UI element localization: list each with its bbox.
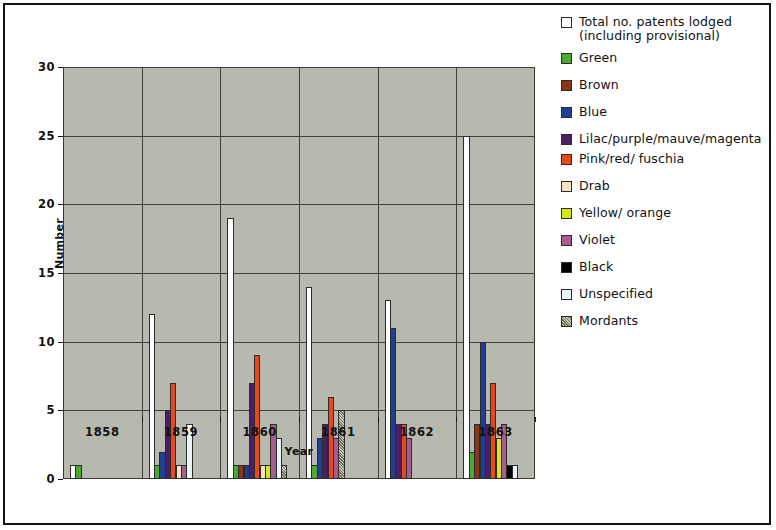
legend-swatch-icon [561, 134, 572, 145]
legend-swatch-icon [561, 316, 572, 327]
legend-item[interactable]: Mordants [561, 314, 769, 328]
y-axis-tick-label: 5 [25, 403, 55, 417]
legend-swatch-icon [561, 235, 572, 246]
legend-swatch-icon [561, 208, 572, 219]
legend-swatch-icon [561, 17, 572, 28]
y-axis-tick-mark [58, 342, 63, 343]
legend-item[interactable]: Green [561, 51, 769, 65]
legend-label: Green [579, 51, 617, 65]
y-axis-tick-mark [58, 410, 63, 411]
y-axis-tick-label: 0 [25, 472, 55, 486]
legend-label: Drab [579, 179, 610, 193]
legend-swatch-icon [561, 154, 572, 165]
x-axis-tick-label: 1858 [63, 425, 142, 439]
bar [281, 465, 287, 479]
legend-label: Mordants [579, 314, 638, 328]
y-axis-tick-label: 30 [25, 60, 55, 74]
legend-label: Brown [579, 78, 619, 92]
legend-item[interactable]: Unspecified [561, 287, 769, 301]
legend-label: Violet [579, 233, 615, 247]
x-axis-tick-label: 1862 [378, 425, 457, 439]
legend-swatch-icon [561, 107, 572, 118]
x-axis-tick-label: 1859 [142, 425, 221, 439]
legend-swatch-icon [561, 80, 572, 91]
bar [254, 355, 260, 479]
y-axis-tick-label: 20 [25, 197, 55, 211]
x-axis-tick-mark [142, 417, 143, 422]
chart-legend: Total no. patents lodged (including prov… [561, 15, 769, 330]
y-axis-label: Number [53, 184, 66, 304]
x-axis-tick-label: 1861 [299, 425, 378, 439]
x-axis-tick-label: 1863 [456, 425, 535, 439]
legend-item[interactable]: Lilac/purple/mauve/magenta [561, 132, 769, 146]
y-axis-tick-label: 15 [25, 266, 55, 280]
y-axis-tick-mark [58, 479, 63, 480]
legend-label: Total no. patents lodged (including prov… [579, 15, 769, 43]
bar [406, 438, 412, 479]
y-axis-tick-label: 25 [25, 129, 55, 143]
legend-swatch-icon [561, 289, 572, 300]
y-axis-tick-label: 10 [25, 335, 55, 349]
x-axis-tick-label: 1860 [220, 425, 299, 439]
legend-label: Unspecified [579, 287, 653, 301]
chart-frame: 051015202530185818591860186118621863 Yea… [3, 3, 771, 525]
bar [75, 465, 81, 479]
legend-label: Black [579, 260, 613, 274]
legend-swatch-icon [561, 181, 572, 192]
x-axis-tick-mark [299, 417, 300, 422]
x-axis-tick-mark [456, 417, 457, 422]
legend-swatch-icon [561, 262, 572, 273]
legend-item[interactable]: Total no. patents lodged (including prov… [561, 15, 769, 43]
x-axis-tick-mark [220, 417, 221, 422]
legend-item[interactable]: Drab [561, 179, 769, 193]
legend-item[interactable]: Yellow/ orange [561, 206, 769, 220]
legend-label: Yellow/ orange [579, 206, 671, 220]
legend-label: Pink/red/ fuschia [579, 152, 684, 166]
bar [227, 218, 233, 479]
legend-swatch-icon [561, 53, 572, 64]
legend-item[interactable]: Blue [561, 105, 769, 119]
legend-item[interactable]: Black [561, 260, 769, 274]
y-axis-tick-mark [58, 67, 63, 68]
legend-label: Lilac/purple/mauve/magenta [579, 132, 762, 146]
x-axis-label: Year [63, 445, 535, 458]
legend-label: Blue [579, 105, 607, 119]
legend-item[interactable]: Violet [561, 233, 769, 247]
legend-item[interactable]: Pink/red/ fuschia [561, 152, 769, 166]
legend-item[interactable]: Brown [561, 78, 769, 92]
x-axis-tick-mark [535, 417, 536, 422]
y-axis-tick-mark [58, 136, 63, 137]
x-axis-tick-mark [378, 417, 379, 422]
bar [512, 465, 518, 479]
